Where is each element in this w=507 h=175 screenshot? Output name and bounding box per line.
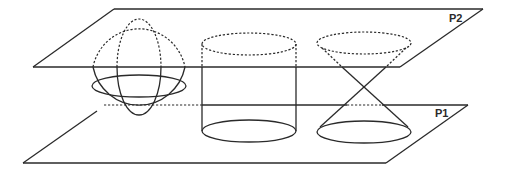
diagram-svg: P1 P2 <box>0 0 507 175</box>
plane-p1-label: P1 <box>435 107 448 119</box>
diagram-canvas: P1 P2 <box>0 0 507 175</box>
plane-p2: P2 <box>33 9 483 67</box>
cylinder <box>202 33 296 142</box>
plane-p1: P1 <box>23 105 468 163</box>
plane-p2-label: P2 <box>449 12 462 24</box>
double-cone <box>317 32 411 143</box>
